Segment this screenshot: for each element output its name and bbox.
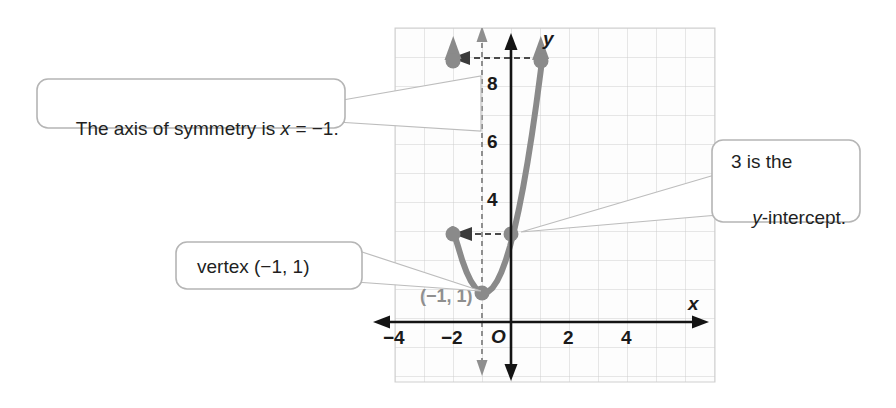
callout-intercept-post: -intercept. [762, 207, 846, 228]
callout-intercept-line2: y-intercept. [731, 182, 846, 255]
callout-intercept-line1: 3 is the [731, 150, 792, 174]
callout-symmetry-text: The axis of symmetry is x = −1. [55, 93, 339, 166]
callout-intercept-var: y [752, 207, 762, 228]
callout-symmetry-post: = −1. [290, 118, 339, 139]
callout-vertex-text: vertex (−1, 1) [197, 255, 309, 279]
figure-stage: −4 −2 2 4 8 6 4 O x y (−1, 1) Th [0, 0, 896, 408]
callout-symmetry-pre: The axis of symmetry is [76, 118, 281, 139]
callout-symmetry-var: x [281, 118, 291, 139]
